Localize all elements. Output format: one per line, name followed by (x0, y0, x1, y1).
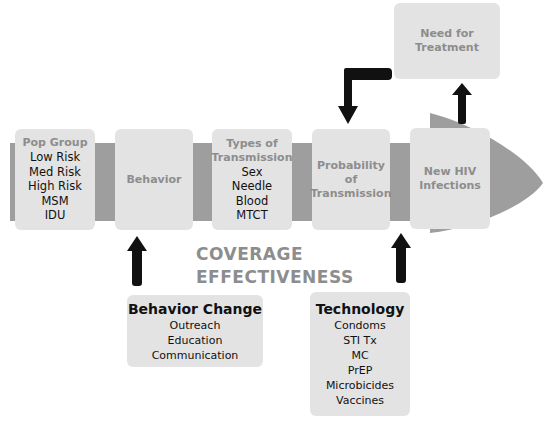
need-for-treatment-box: Need for Treatment (394, 3, 500, 79)
technology-box: Technology Condoms STI Tx MC PrEP Microb… (310, 292, 410, 416)
behavior-change-box: Behavior Change Outreach Education Commu… (127, 295, 263, 367)
stage-behavior: Behavior (115, 129, 193, 230)
stage-item: Sex (242, 165, 263, 180)
stage-title: of (345, 173, 357, 187)
arrow-up-icon (391, 233, 411, 283)
label-line: EFFECTIVENESS (196, 266, 354, 289)
intervention-item: STI Tx (343, 333, 377, 348)
intervention-item: Outreach (170, 318, 221, 333)
stage-item: High Risk (28, 179, 82, 194)
stage-item: Needle (232, 179, 272, 194)
stage-title: Transmission (311, 187, 392, 201)
stage-probability-of-transmission: Probability of Transmission (312, 129, 390, 230)
intervention-item: Condoms (334, 318, 386, 333)
stage-item: Med Risk (29, 165, 81, 180)
stage-new-hiv-infections: New HIV Infections (410, 128, 490, 229)
outcome-title: Need for (420, 27, 474, 41)
intervention-item: MC (351, 348, 368, 363)
intervention-title: Technology (316, 300, 405, 318)
stage-title: Transmission (212, 151, 293, 165)
stage-item: MTCT (236, 208, 267, 223)
stage-title: Probability (317, 159, 385, 173)
arrow-up-icon (451, 83, 473, 124)
coverage-effectiveness-label: COVERAGE EFFECTIVENESS (196, 243, 354, 289)
label-line: COVERAGE (196, 243, 354, 266)
stage-title: New HIV (424, 165, 476, 179)
stage-title: Pop Group (22, 136, 87, 150)
elbow-arrow-down-icon (338, 68, 396, 128)
arrow-up-icon (127, 236, 147, 286)
stage-title: Behavior (126, 173, 181, 187)
stage-item: Blood (236, 194, 268, 209)
intervention-item: Communication (152, 348, 239, 363)
stage-item: IDU (45, 208, 66, 223)
intervention-item: Education (168, 333, 223, 348)
intervention-item: PrEP (348, 363, 373, 378)
intervention-item: Microbicides (326, 378, 394, 393)
stage-item: MSM (41, 194, 68, 209)
stage-item: Low Risk (30, 150, 80, 165)
stage-pop-group: Pop Group Low Risk Med Risk High Risk MS… (15, 129, 95, 230)
stage-title: Types of (226, 137, 277, 151)
intervention-title: Behavior Change (128, 300, 262, 318)
stage-title: Infections (419, 179, 481, 193)
intervention-item: Vaccines (336, 393, 384, 408)
stage-types-of-transmission: Types of Transmission Sex Needle Blood M… (212, 129, 292, 230)
outcome-title: Treatment (415, 41, 479, 55)
